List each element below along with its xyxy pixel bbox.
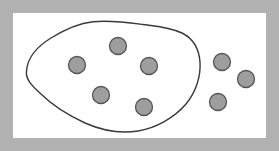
dot-inside-4-dot (93, 87, 110, 104)
diagram-svg: Set membership diagram An irregular clos… (0, 0, 279, 151)
diagram-canvas: Set membership diagram An irregular clos… (0, 0, 279, 151)
dot-outside-1-dot (214, 54, 231, 71)
dot-outside-2-dot (238, 71, 255, 88)
dot-inside-1-dot (69, 57, 86, 74)
dot-inside-2-dot (110, 38, 127, 55)
dot-outside-3-dot (210, 94, 227, 111)
dot-inside-3-dot (141, 58, 158, 75)
dot-inside-5-dot (136, 99, 153, 116)
figure-root: Set membership diagram An irregular clos… (0, 0, 279, 151)
